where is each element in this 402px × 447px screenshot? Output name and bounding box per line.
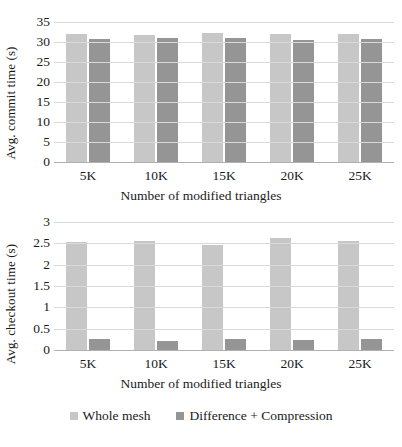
bar-difference-compression bbox=[225, 339, 246, 350]
y-tick-label: 0 bbox=[43, 155, 50, 169]
y-tick-label: 2 bbox=[43, 258, 50, 272]
bar-whole-mesh bbox=[270, 238, 291, 350]
gridline bbox=[54, 329, 394, 330]
y-tick-label: 2.5 bbox=[33, 237, 50, 251]
bar-difference-compression bbox=[157, 38, 178, 162]
gridline bbox=[54, 102, 394, 103]
y-tick-label: 0.5 bbox=[33, 322, 50, 336]
y-tick-label: 20 bbox=[37, 75, 51, 89]
legend-item: Difference + Compression bbox=[176, 408, 332, 424]
x-tick-label: 10K bbox=[122, 356, 190, 372]
bar-difference-compression bbox=[89, 339, 110, 350]
x-axis-labels-checkout: 5K10K15K20K25K bbox=[54, 356, 394, 372]
bar-difference-compression bbox=[89, 39, 110, 162]
x-axis-title-checkout: Number of modified triangles bbox=[0, 376, 402, 392]
gridline bbox=[54, 307, 394, 308]
gridline bbox=[54, 286, 394, 287]
gridline bbox=[54, 82, 394, 83]
y-tick-label: 0 bbox=[43, 343, 50, 357]
bar-difference-compression bbox=[361, 339, 382, 350]
y-axis-title-checkout-text: Avg. checkout time (s) bbox=[3, 244, 19, 364]
bar-group bbox=[326, 22, 394, 162]
x-tick-label: 25K bbox=[326, 356, 394, 372]
bar-whole-mesh bbox=[202, 245, 223, 350]
bar-group bbox=[258, 22, 326, 162]
x-tick-label: 20K bbox=[258, 356, 326, 372]
gridline bbox=[54, 122, 394, 123]
y-axis-title-checkout: Avg. checkout time (s) bbox=[0, 206, 22, 402]
bar-difference-compression bbox=[293, 40, 314, 162]
x-axis-labels-commit: 5K10K15K20K25K bbox=[54, 168, 394, 184]
legend-swatch-icon bbox=[70, 412, 78, 420]
gridline bbox=[54, 22, 394, 23]
x-tick-label: 15K bbox=[190, 356, 258, 372]
x-tick-label: 15K bbox=[190, 168, 258, 184]
y-tick-label: 15 bbox=[37, 95, 51, 109]
y-axis-title-commit-text: Avg. commit time (s) bbox=[3, 47, 19, 160]
legend-swatch-icon bbox=[176, 412, 184, 420]
plot-area-checkout: 00.511.522.53 bbox=[22, 206, 396, 402]
y-tick-label: 10 bbox=[37, 115, 51, 129]
y-axis-ticks-commit: 05101520253035 bbox=[22, 22, 52, 162]
legend-label: Difference + Compression bbox=[189, 408, 332, 424]
bar-group-container-commit bbox=[54, 22, 394, 162]
x-axis-title-commit: Number of modified triangles bbox=[0, 188, 402, 204]
chart-legend: Whole meshDifference + Compression bbox=[0, 408, 402, 424]
bar-group bbox=[190, 22, 258, 162]
bar-whole-mesh bbox=[134, 241, 155, 350]
gridline bbox=[54, 142, 394, 143]
x-tick-label: 5K bbox=[54, 168, 122, 184]
y-tick-label: 1 bbox=[43, 301, 50, 315]
x-tick-label: 20K bbox=[258, 168, 326, 184]
plot-canvas-checkout bbox=[54, 222, 394, 350]
chart-checkout-time: Avg. checkout time (s) 00.511.522.53 5K1… bbox=[0, 206, 402, 402]
bar-difference-compression bbox=[225, 38, 246, 162]
x-tick-label: 10K bbox=[122, 168, 190, 184]
gridline bbox=[54, 243, 394, 244]
x-axis-line bbox=[54, 162, 394, 163]
x-tick-label: 25K bbox=[326, 168, 394, 184]
x-tick-label: 5K bbox=[54, 356, 122, 372]
gridline bbox=[54, 62, 394, 63]
bar-whole-mesh bbox=[338, 241, 359, 350]
y-tick-label: 25 bbox=[37, 55, 51, 69]
y-axis-ticks-checkout: 00.511.522.53 bbox=[22, 222, 52, 350]
plot-canvas-commit bbox=[54, 22, 394, 162]
y-tick-label: 3 bbox=[43, 215, 50, 229]
bar-difference-compression bbox=[293, 340, 314, 350]
y-tick-label: 30 bbox=[37, 35, 51, 49]
bar-group bbox=[122, 22, 190, 162]
y-tick-label: 35 bbox=[37, 15, 51, 29]
y-axis-title-commit: Avg. commit time (s) bbox=[0, 4, 22, 202]
y-tick-label: 1.5 bbox=[33, 279, 50, 293]
legend-item: Whole mesh bbox=[70, 408, 151, 424]
gridline bbox=[54, 42, 394, 43]
gridline bbox=[54, 265, 394, 266]
bar-difference-compression bbox=[361, 39, 382, 162]
figure-two-bar-charts: Avg. commit time (s) 05101520253035 5K10… bbox=[0, 0, 402, 447]
bar-difference-compression bbox=[157, 341, 178, 350]
chart-commit-time: Avg. commit time (s) 05101520253035 5K10… bbox=[0, 4, 402, 202]
y-tick-label: 5 bbox=[43, 135, 50, 149]
bar-group bbox=[54, 22, 122, 162]
gridline bbox=[54, 222, 394, 223]
legend-label: Whole mesh bbox=[83, 408, 151, 424]
bar-whole-mesh bbox=[66, 242, 87, 350]
x-axis-line bbox=[54, 350, 394, 351]
